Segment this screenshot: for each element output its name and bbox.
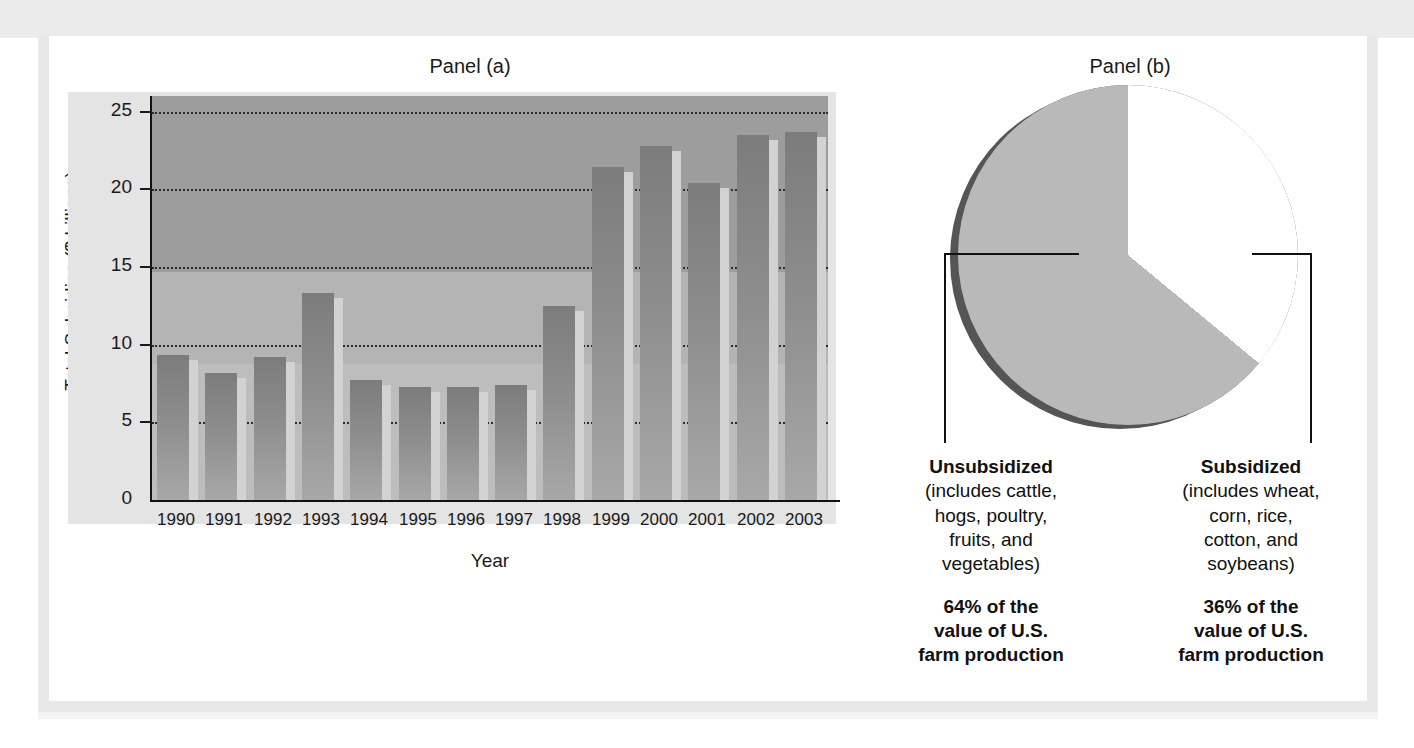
x-axis-line	[150, 500, 840, 502]
pie-label-subsidized: Subsidized (includes wheat, corn, rice, …	[1146, 455, 1356, 668]
bar-highlight	[527, 390, 536, 500]
bar-face	[737, 135, 769, 500]
x-tick-label-1996: 1996	[442, 510, 490, 530]
y-tick-mark-20	[140, 188, 152, 190]
bar-2001	[688, 183, 720, 500]
x-axis-title: Year	[152, 550, 828, 572]
bar-highlight	[334, 298, 343, 500]
x-tick-label-1990: 1990	[152, 510, 200, 530]
x-tick-label-1999: 1999	[587, 510, 635, 530]
bar-face	[302, 293, 334, 500]
pie-label-unsubsidized-detail-line-2: fruits, and	[886, 528, 1096, 552]
pie-label-unsubsidized-detail-line-1: hogs, poultry,	[886, 504, 1096, 528]
figure-bottom-shadow	[38, 712, 1378, 719]
pie-label-subsidized-detail-line-3: soybeans)	[1146, 552, 1356, 576]
x-tick-label-1998: 1998	[538, 510, 586, 530]
pie-label-unsubsidized-heading: Unsubsidized	[929, 456, 1053, 477]
x-tick-label-2001: 2001	[683, 510, 731, 530]
y-tick-mark-10	[140, 344, 152, 346]
x-tick-label-1993: 1993	[297, 510, 345, 530]
leader-line-right-horizontal	[1252, 253, 1312, 255]
bar-1997	[495, 385, 527, 500]
bar-face	[254, 357, 286, 500]
bar-1991	[205, 373, 237, 500]
bar-2003	[785, 132, 817, 500]
bar-highlight	[286, 362, 295, 500]
bar-highlight	[575, 311, 584, 500]
x-tick-label-1992: 1992	[249, 510, 297, 530]
panel-b-title: Panel (b)	[980, 55, 1280, 78]
bar-1996	[447, 387, 479, 500]
pie-label-unsubsidized-detail-line-3: vegetables)	[886, 552, 1096, 576]
bar-face	[447, 387, 479, 500]
bar-2000	[640, 146, 672, 500]
bar-1994	[350, 380, 382, 500]
bar-1995	[399, 387, 431, 500]
pie-label-subsidized-detail-line-2: cotton, and	[1146, 528, 1356, 552]
pie-chart-panel-b: Unsubsidized (includes cattle, hogs, pou…	[900, 85, 1370, 685]
bar-face	[688, 183, 720, 500]
x-tick-label-1995: 1995	[394, 510, 442, 530]
y-tick-label-10: 10	[82, 332, 132, 354]
figure-page: Panel (a) Total Subsidies ($ billions) 0…	[0, 0, 1414, 748]
x-tick-label-1991: 1991	[200, 510, 248, 530]
bar-face	[495, 385, 527, 500]
leader-line-left-vertical	[944, 253, 946, 443]
bar-face	[785, 132, 817, 500]
y-tick-mark-25	[140, 111, 152, 113]
clipped-caption-text	[150, 0, 750, 6]
pie-label-subsidized-heading: Subsidized	[1201, 456, 1301, 477]
y-tick-label-25: 25	[82, 99, 132, 121]
bar-highlight	[382, 385, 391, 500]
leader-line-right-vertical	[1310, 253, 1312, 443]
bar-highlight	[431, 392, 440, 500]
bar-1993	[302, 293, 334, 500]
bar-1998	[543, 306, 575, 500]
pie-label-unsubsidized-percent-line-1: value of U.S.	[886, 619, 1096, 643]
bar-highlight	[769, 140, 778, 500]
leader-line-left-horizontal	[944, 253, 1079, 255]
bar-highlight	[720, 188, 729, 500]
bar-chart-panel-a: Total Subsidies ($ billions) 0510152025 …	[40, 90, 860, 570]
bar-face	[157, 355, 189, 500]
y-axis-line	[150, 96, 152, 500]
pie-label-unsubsidized-percent-line-0: 64% of the	[886, 595, 1096, 619]
y-tick-mark-15	[140, 266, 152, 268]
y-tick-label-20: 20	[82, 176, 132, 198]
pie-label-subsidized-percent-line-0: 36% of the	[1146, 595, 1356, 619]
pie-slice-unsubsidized	[958, 85, 1298, 425]
bar-highlight	[189, 360, 198, 500]
bar-face	[543, 306, 575, 500]
bar-highlight	[237, 378, 246, 500]
bar-highlight	[672, 151, 681, 500]
bar-1992	[254, 357, 286, 500]
pie-label-unsubsidized: Unsubsidized (includes cattle, hogs, pou…	[886, 455, 1096, 668]
bar-face	[205, 373, 237, 500]
x-tick-label-2003: 2003	[780, 510, 828, 530]
x-tick-label-2000: 2000	[635, 510, 683, 530]
bar-2002	[737, 135, 769, 500]
pie-label-subsidized-percent-line-1: value of U.S.	[1146, 619, 1356, 643]
bar-face	[399, 387, 431, 500]
pie-label-subsidized-detail-line-1: corn, rice,	[1146, 504, 1356, 528]
bar-1999	[592, 167, 624, 500]
pie-label-unsubsidized-percent-line-2: farm production	[886, 643, 1096, 667]
bar-highlight	[479, 392, 488, 500]
bar-face	[350, 380, 382, 500]
x-tick-label-1997: 1997	[490, 510, 538, 530]
panel-a-title: Panel (a)	[260, 55, 680, 78]
plot-area	[152, 96, 828, 500]
pie-label-subsidized-percent-line-2: farm production	[1146, 643, 1356, 667]
pie-label-subsidized-detail-line-0: (includes wheat,	[1146, 479, 1356, 503]
bar-1990	[157, 355, 189, 500]
x-tick-label-1994: 1994	[345, 510, 393, 530]
y-tick-label-15: 15	[82, 254, 132, 276]
y-tick-mark-5	[140, 421, 152, 423]
gridline-25	[152, 112, 828, 114]
pie-label-unsubsidized-detail-line-0: (includes cattle,	[886, 479, 1096, 503]
bar-face	[592, 167, 624, 500]
bar-highlight	[624, 172, 633, 500]
x-tick-label-2002: 2002	[732, 510, 780, 530]
pie-graphic	[958, 85, 1298, 425]
bar-highlight	[817, 137, 826, 500]
